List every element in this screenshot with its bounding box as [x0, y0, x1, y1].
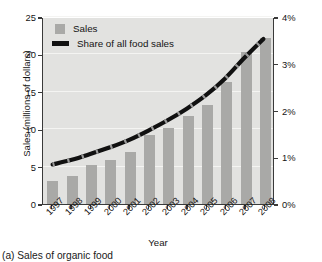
figure-caption: (a) Sales of organic food: [2, 250, 113, 261]
legend-swatch-line-icon: [52, 41, 69, 46]
y-axis-left-tickmark: [38, 204, 42, 205]
line-path: [53, 39, 264, 165]
y-axis-right-tick-label: 0%: [282, 200, 312, 209]
legend-label-sales: Sales: [73, 23, 98, 34]
y-axis-left-tickmark: [38, 92, 42, 93]
y-axis-left-tick-label: 0: [10, 200, 36, 209]
y-axis-left-tick-label: 5: [10, 163, 36, 172]
y-axis-right-tick-label: 2%: [282, 107, 312, 116]
line-path-dash-overlay: [53, 39, 264, 165]
y-axis-left-tick-label: 10: [10, 125, 36, 134]
y-axis-right-tick-label: 3%: [282, 60, 312, 69]
legend-item-sales: Sales: [55, 22, 174, 35]
y-axis-left-tickmark: [38, 55, 42, 56]
gridline: [43, 16, 273, 17]
y-axis-left-tick-label: 15: [10, 88, 36, 97]
legend-swatch-bar-icon: [55, 24, 65, 34]
y-axis-right-tick-label: 1%: [282, 153, 312, 162]
y-axis-right-tickmark: [274, 158, 278, 159]
y-axis-right-tickmark: [274, 17, 278, 18]
legend-item-share: Share of all food sales: [55, 37, 174, 50]
legend-label-share: Share of all food sales: [77, 38, 174, 49]
chart-figure: Sales (millions of dollars) Percent shar…: [0, 0, 322, 262]
chart-legend: Sales Share of all food sales: [55, 22, 174, 52]
y-axis-right-tickmark: [274, 111, 278, 112]
x-axis-title: Year: [42, 237, 274, 248]
y-axis-left-tick-label: 20: [10, 50, 36, 59]
y-axis-left-tickmark: [38, 17, 42, 18]
y-axis-right-tick-label: 4%: [282, 13, 312, 22]
y-axis-left-tick-label: 25: [10, 13, 36, 22]
y-axis-right-tickmark: [274, 64, 278, 65]
y-axis-left-title: Sales (millions of dollars): [21, 24, 32, 184]
y-axis-left-tickmark: [38, 130, 42, 131]
y-axis-left-tickmark: [38, 167, 42, 168]
